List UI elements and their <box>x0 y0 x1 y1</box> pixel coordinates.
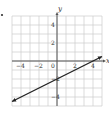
x-tick-label: 2 <box>73 62 77 69</box>
x-tick-label: 0 <box>51 62 55 69</box>
problem-marker <box>1 14 3 16</box>
x-axis-label: x <box>106 57 109 65</box>
x-tick-label: −2 <box>34 62 43 69</box>
y-tick-label: 4 <box>51 21 55 28</box>
x-tick-label: −4 <box>16 62 25 69</box>
coordinate-plane: xy−4−202442−2−4 <box>0 0 109 114</box>
y-axis-label: y <box>57 5 63 13</box>
y-tick-label: 2 <box>51 39 55 46</box>
y-tick-label: −4 <box>51 93 60 100</box>
x-tick-label: 4 <box>91 62 95 69</box>
